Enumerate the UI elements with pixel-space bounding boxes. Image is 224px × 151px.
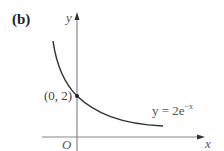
point-marker	[75, 94, 79, 98]
x-axis-arrow-icon	[197, 135, 205, 140]
y-axis-arrow-icon	[75, 12, 80, 20]
point-label: (0, 2)	[44, 89, 72, 102]
graph-canvas	[0, 0, 224, 151]
y-axis	[75, 12, 80, 151]
panel-label: (b)	[12, 12, 30, 27]
origin-label: O	[62, 138, 71, 151]
y-axis-label: y	[66, 11, 72, 24]
exponential-curve	[53, 41, 163, 126]
x-axis-label: x	[205, 137, 211, 150]
equation-base: y = 2e	[152, 103, 185, 118]
equation-exponent: −x	[185, 102, 194, 111]
equation-label: y = 2e−x	[152, 104, 193, 117]
